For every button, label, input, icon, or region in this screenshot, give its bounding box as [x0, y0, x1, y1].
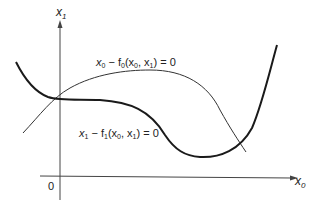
- y-axis-label: x1: [55, 5, 66, 21]
- origin-label: 0: [48, 180, 54, 192]
- f1-curve-label: x1 − f1(x0, x1) = 0: [78, 127, 159, 140]
- x-axis-label: x0: [294, 174, 306, 190]
- y-axis-arrow-icon: [58, 20, 63, 28]
- diagram-canvas: x1 x0 0 x0 − f0(x0, x1) = 0 x1 − f1(x0, …: [0, 0, 316, 204]
- y-axis: [58, 20, 63, 200]
- x-axis: [40, 176, 298, 181]
- f0-curve-label: x0 − f0(x0, x1) = 0: [95, 56, 176, 69]
